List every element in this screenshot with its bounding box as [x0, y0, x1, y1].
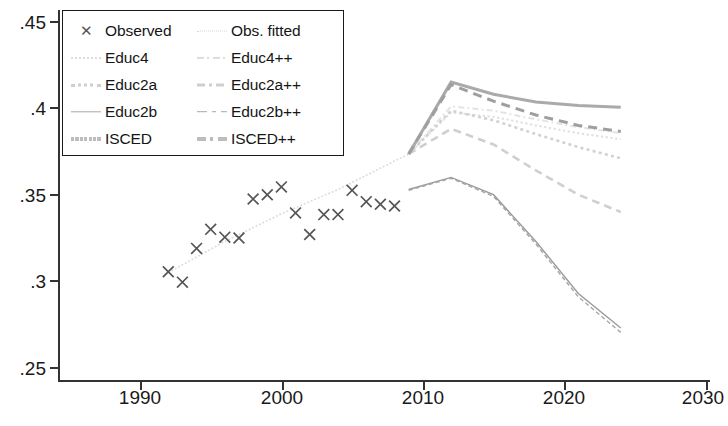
- observed-marker: [333, 209, 344, 220]
- legend-sample-isced: [71, 132, 101, 146]
- observed-marker: [163, 266, 174, 277]
- series-line-obs-fitted: [168, 154, 408, 273]
- series-line-educ2b: [409, 178, 621, 332]
- observed-marker: [361, 196, 372, 207]
- observed-marker: [191, 243, 202, 254]
- legend-label-educ4pp: Educ4++: [231, 49, 335, 67]
- series-line-educ4: [409, 106, 621, 154]
- dashdot-line-icon: [197, 56, 227, 58]
- legend-label-obs-fitted: Obs. fitted: [231, 22, 335, 40]
- observed-marker: [347, 185, 358, 196]
- observed-marker: [304, 229, 315, 240]
- observed-marker: [318, 209, 329, 220]
- legend-sample-educ2bpp: [197, 105, 227, 119]
- dotted-line-icon: [197, 30, 227, 31]
- legend-label-educ4: Educ4: [105, 49, 197, 67]
- observed-marker: [389, 201, 400, 212]
- dashed-line-icon: [197, 83, 227, 86]
- legend-label-isced: ISCED: [105, 130, 197, 148]
- solid-thin-line-icon: [71, 111, 101, 112]
- series-line-educ2b: [409, 177, 621, 328]
- observed-marker: [276, 182, 287, 193]
- observed-marker: [290, 207, 301, 218]
- legend-sample-educ2app: [197, 78, 227, 92]
- legend-sample-educ4: [71, 51, 101, 65]
- legend-label-educ2b: Educ2b: [105, 103, 197, 121]
- observed-marker: [177, 277, 188, 288]
- dotted-thick-line-icon: [71, 83, 101, 86]
- dashed-thick-line-icon: [197, 137, 227, 141]
- legend-sample-educ2b: [71, 105, 101, 119]
- dashed-thin-line-icon: [197, 111, 227, 113]
- legend-sample-educ4pp: [197, 51, 227, 65]
- legend-box: ✕ Observed Obs. fitted Educ4 Educ4++ Edu…: [62, 10, 344, 156]
- dotted-line-icon: [71, 57, 101, 59]
- legend-sample-educ2a: [71, 78, 101, 92]
- legend-sample-observed: ✕: [71, 24, 101, 38]
- legend-grid: ✕ Observed Obs. fitted Educ4 Educ4++ Edu…: [71, 17, 335, 152]
- chart-container: .45 .4 .35 .3 .25 1990 2000 2010 2020 20…: [0, 0, 728, 426]
- observed-marker: [205, 224, 216, 235]
- series-line-educ2a: [409, 129, 621, 212]
- legend-sample-obs-fitted: [197, 24, 227, 38]
- observed-marker: [262, 189, 273, 200]
- legend-label-educ2app: Educ2a++: [231, 76, 335, 94]
- observed-marker: [248, 194, 259, 205]
- observed-marker: [375, 199, 386, 210]
- solid-thick-line-icon: [71, 137, 101, 141]
- legend-label-educ2bpp: Educ2b++: [231, 103, 335, 121]
- legend-label-educ2a: Educ2a: [105, 76, 197, 94]
- legend-label-observed: Observed: [105, 22, 197, 40]
- legend-label-iscedpp: ISCED++: [231, 130, 335, 148]
- legend-sample-iscedpp: [197, 132, 227, 146]
- x-marker-icon: ✕: [71, 24, 101, 38]
- observed-markers: [163, 182, 400, 288]
